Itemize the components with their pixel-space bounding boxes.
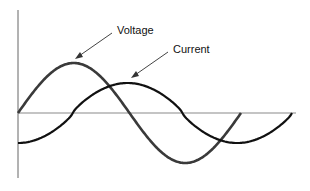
current-arrowhead-icon xyxy=(131,71,139,78)
current-arrow xyxy=(135,52,168,75)
waveform-diagram: Voltage Current xyxy=(0,0,310,191)
voltage-arrowhead-icon xyxy=(75,52,83,59)
voltage-label: Voltage xyxy=(117,24,154,36)
voltage-arrow xyxy=(79,33,112,56)
current-label: Current xyxy=(173,43,210,55)
